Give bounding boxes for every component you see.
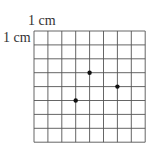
point-a [87,71,91,75]
point-b [115,84,119,88]
square-grid [0,0,154,156]
point-c [74,98,78,102]
